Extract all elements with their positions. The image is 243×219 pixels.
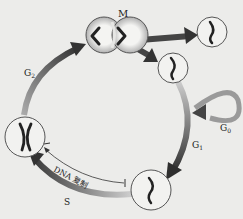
cell-cycle-diagram: M G2 G0 G1 S DNA 复制 <box>0 0 243 219</box>
daughter-cell-1 <box>197 17 227 47</box>
g1-arrow <box>166 82 188 180</box>
m-phase-cell <box>86 17 148 53</box>
m-to-daughter-arrow-1 <box>140 27 198 44</box>
label-g1: G1 <box>192 140 203 151</box>
g2-cell <box>5 117 45 157</box>
label-g0: G0 <box>220 123 231 134</box>
g0-loop-arrow <box>192 93 239 121</box>
label-s: S <box>64 197 70 207</box>
label-g2: G2 <box>24 68 35 79</box>
g1-cell <box>131 170 171 210</box>
daughter-cell-2 <box>158 53 188 83</box>
label-m: M <box>118 8 128 19</box>
